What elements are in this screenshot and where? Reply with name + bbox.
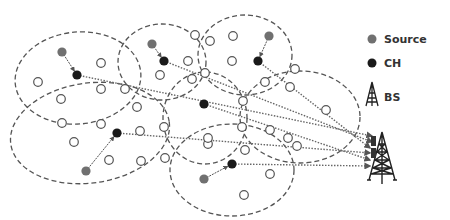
sensor-node [266, 126, 275, 135]
source-node [81, 166, 90, 175]
legend: Source CH BS [366, 33, 427, 106]
sensor-node [97, 120, 106, 129]
sensor-node [97, 59, 106, 68]
sensor-node [204, 134, 213, 143]
sensor-node [284, 134, 293, 143]
sensor-node [160, 123, 169, 132]
sensor-node [156, 71, 165, 80]
sensor-node [201, 69, 210, 78]
cluster-head-node [159, 56, 168, 65]
sensor-node [286, 83, 295, 92]
ch-to-bs-link [258, 61, 370, 148]
cluster-regions [4, 15, 360, 216]
sensor-node [229, 32, 238, 41]
sensor-node [188, 75, 197, 84]
source-to-ch-link [86, 137, 114, 171]
cluster-head-node [253, 56, 262, 65]
sensor-node [191, 31, 200, 40]
sensor-node [322, 106, 331, 115]
sensor-node [133, 103, 142, 112]
sensor-node [240, 191, 249, 200]
antenna-panel [371, 136, 376, 146]
cluster-boundary [170, 124, 294, 216]
sensor-node [241, 146, 250, 155]
sensor-node [206, 37, 215, 46]
sensor-node [161, 154, 170, 163]
sensor-node [184, 57, 193, 66]
cluster-head-node [112, 128, 121, 137]
source-node [264, 31, 273, 40]
sensor-node [34, 78, 43, 87]
ch-to-bs-link [232, 164, 370, 166]
sensor-node [266, 170, 275, 179]
cluster-boundary [4, 72, 176, 193]
legend-ch-icon [368, 59, 377, 68]
sensor-node [97, 85, 106, 94]
antenna-panel [371, 148, 376, 158]
legend-bs-icon [366, 82, 378, 106]
source-node [57, 47, 66, 56]
source-node [199, 174, 208, 183]
network-diagram: Source CH BS [0, 0, 450, 220]
legend-source-icon [368, 35, 377, 44]
cluster-head-node [72, 70, 81, 79]
sensor-node [105, 156, 114, 165]
legend-source-label: Source [384, 33, 427, 46]
sensor-node [239, 97, 248, 106]
source-node [147, 39, 156, 48]
sensor-node [70, 138, 79, 147]
base-station-icon [367, 132, 397, 184]
cluster-head-node [227, 159, 236, 168]
legend-bs-label: BS [384, 91, 400, 104]
legend-ch-label: CH [384, 57, 401, 70]
sensor-node [58, 119, 67, 128]
sensor-node [136, 127, 145, 136]
sensor-node [261, 78, 270, 87]
cluster-boundary [163, 72, 247, 164]
sensor-node [291, 65, 300, 74]
sensor-node [121, 85, 130, 94]
cluster-head-node [199, 99, 208, 108]
sensor-node [57, 95, 66, 104]
normal-nodes [34, 31, 331, 200]
sensor-node [238, 123, 247, 132]
cluster-boundary [198, 15, 292, 95]
sensor-node [293, 142, 302, 151]
sensor-node [228, 57, 237, 66]
sensor-node [137, 157, 146, 166]
